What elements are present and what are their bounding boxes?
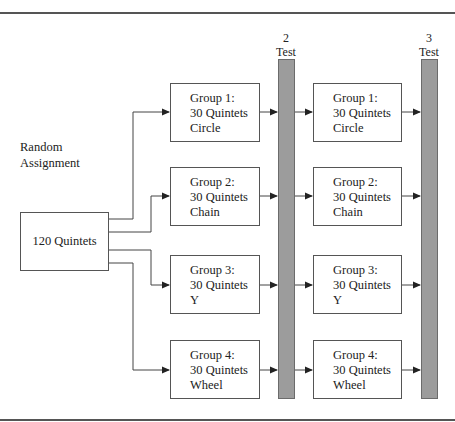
group-network: Y [190, 293, 248, 308]
group-size: 30 Quintets [333, 363, 391, 378]
group-network: Wheel [333, 378, 391, 393]
group-title: Group 4: [333, 348, 391, 363]
test-label: Test [266, 45, 306, 59]
phase2-group-3-box: Group 3: 30 Quintets Y [313, 255, 402, 314]
group-network: Circle [190, 121, 248, 136]
phase1-group-2-box: Group 2: 30 Quintets Chain [170, 167, 260, 226]
group-size: 30 Quintets [333, 278, 391, 293]
test-2-label: 2 Test [266, 31, 306, 59]
test-2-bar [278, 59, 295, 399]
phase1-group-4-box: Group 4: 30 Quintets Wheel [170, 340, 260, 399]
test-number: 2 [266, 31, 306, 45]
test-3-label: 3 Test [409, 31, 449, 59]
phase2-group-4-box: Group 4: 30 Quintets Wheel [313, 340, 402, 399]
test-3-bar [421, 59, 438, 399]
random-assignment-label: Random Assignment [20, 139, 80, 171]
group-title: Group 2: [190, 175, 248, 190]
group-size: 30 Quintets [190, 363, 248, 378]
source-label: 120 Quintets [32, 234, 96, 249]
group-title: Group 1: [190, 91, 248, 106]
group-network: Chain [333, 205, 391, 220]
phase1-group-3-box: Group 3: 30 Quintets Y [170, 255, 260, 314]
group-title: Group 3: [333, 263, 391, 278]
label-line: Random [20, 139, 80, 155]
group-title: Group 2: [333, 175, 391, 190]
group-size: 30 Quintets [333, 190, 391, 205]
phase1-group-1-box: Group 1: 30 Quintets Circle [170, 83, 260, 142]
group-size: 30 Quintets [190, 106, 248, 121]
test-label: Test [409, 45, 449, 59]
label-line: Assignment [20, 155, 80, 171]
group-network: Circle [333, 121, 391, 136]
source-box: 120 Quintets [20, 212, 109, 271]
group-title: Group 4: [190, 348, 248, 363]
test-number: 3 [409, 31, 449, 45]
phase2-group-1-box: Group 1: 30 Quintets Circle [313, 83, 402, 142]
phase2-group-2-box: Group 2: 30 Quintets Chain [313, 167, 402, 226]
group-title: Group 3: [190, 263, 248, 278]
group-size: 30 Quintets [190, 190, 248, 205]
group-title: Group 1: [333, 91, 391, 106]
group-network: Chain [190, 205, 248, 220]
group-network: Wheel [190, 378, 248, 393]
group-size: 30 Quintets [333, 106, 391, 121]
group-size: 30 Quintets [190, 278, 248, 293]
group-network: Y [333, 293, 391, 308]
